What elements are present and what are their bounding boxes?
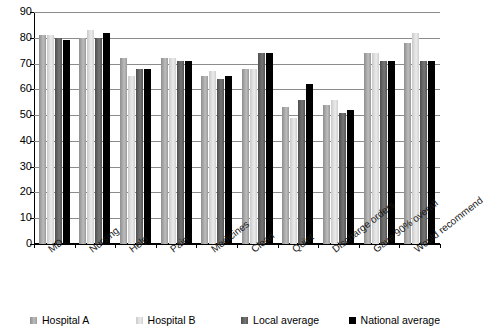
chart-legend: Hospital AHospital BLocal averageNationa… — [30, 314, 440, 326]
bar — [95, 38, 102, 244]
legend-label: National average — [361, 314, 440, 326]
bar-group — [278, 12, 319, 244]
y-axis-tick-label: 30 — [4, 161, 32, 172]
bar-group — [318, 12, 359, 244]
bar — [177, 61, 184, 244]
legend-item: Hospital A — [30, 314, 136, 326]
bar — [144, 69, 151, 244]
bar — [209, 71, 216, 244]
bar — [388, 61, 395, 244]
y-axis-tick-label: 90 — [4, 6, 32, 17]
y-axis-tick-label: 0 — [4, 238, 32, 249]
legend-label: Local average — [253, 314, 319, 326]
bar — [258, 53, 265, 244]
y-axis-tick-label: 50 — [4, 109, 32, 120]
bar — [428, 61, 435, 244]
bar — [339, 113, 346, 244]
bar — [79, 38, 86, 244]
bar — [290, 118, 297, 244]
bar-group — [75, 12, 116, 244]
bar — [331, 100, 338, 244]
legend-label: Hospital B — [148, 314, 196, 326]
bar — [55, 38, 62, 244]
legend-swatch-icon — [241, 317, 248, 324]
bar — [63, 40, 70, 244]
y-axis-tick-label: 80 — [4, 32, 32, 43]
bar — [161, 58, 168, 244]
bar — [128, 76, 135, 244]
bar — [87, 30, 94, 244]
bar — [217, 79, 224, 244]
legend-item: Local average — [241, 314, 349, 326]
bar — [47, 35, 54, 244]
bar — [306, 84, 313, 244]
bar — [185, 61, 192, 244]
y-axis-tick-label: 70 — [4, 58, 32, 69]
y-axis-tick-label: 10 — [4, 212, 32, 223]
bar-group — [196, 12, 237, 244]
bar — [136, 69, 143, 244]
legend-item: National average — [349, 314, 440, 326]
bar — [298, 100, 305, 244]
x-axis-labels: MDNursingHelpPainMedicinesCleanQuietDisc… — [34, 246, 440, 308]
y-axis-tick-label: 20 — [4, 186, 32, 197]
bar — [103, 33, 110, 244]
bar — [323, 105, 330, 244]
bar — [120, 58, 127, 244]
bar — [201, 76, 208, 244]
bar — [39, 35, 46, 244]
y-axis-tick-label: 60 — [4, 83, 32, 94]
legend-swatch-icon — [136, 317, 143, 324]
bar — [347, 110, 354, 244]
bar-group — [115, 12, 156, 244]
legend-label: Hospital A — [42, 314, 89, 326]
bar — [169, 58, 176, 244]
bar-group — [237, 12, 278, 244]
bar-group — [34, 12, 75, 244]
bar — [266, 53, 273, 244]
legend-swatch-icon — [30, 317, 37, 324]
bar — [282, 107, 289, 244]
y-axis-tick-label: 40 — [4, 135, 32, 146]
bar — [250, 69, 257, 244]
legend-swatch-icon — [349, 317, 356, 324]
legend-item: Hospital B — [136, 314, 242, 326]
bar-group — [156, 12, 197, 244]
bar — [225, 76, 232, 244]
bar — [242, 69, 249, 244]
x-axis-tick-mark — [440, 244, 441, 248]
